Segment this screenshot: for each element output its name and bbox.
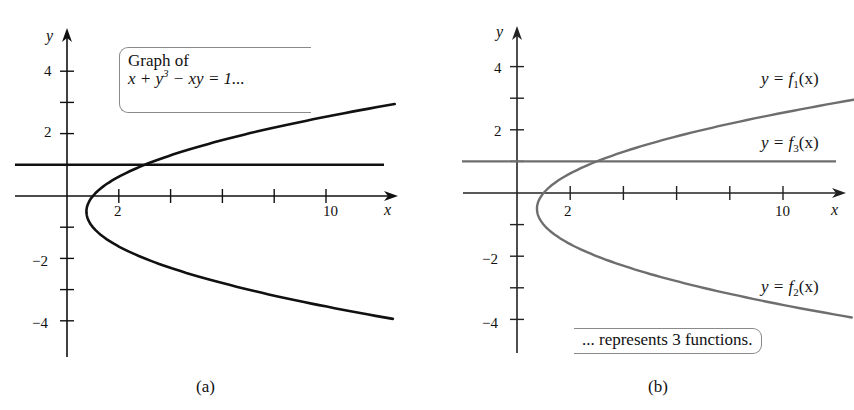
annotation-callout: ... represents 3 functions.: [574, 328, 762, 354]
label-part: (x): [799, 133, 819, 152]
label-f2: y = f2(x): [761, 279, 819, 295]
x-tick-label-2: 2: [564, 204, 572, 219]
x-tick-label-10: 10: [323, 204, 338, 219]
eq-part: − xy = 1...: [169, 69, 245, 88]
label-part: y =: [761, 69, 789, 88]
annotation-callout: Graph of x + y3 − xy = 1...: [119, 47, 311, 113]
eq-part: x + y: [128, 69, 163, 88]
callout-title: Graph of: [128, 52, 303, 70]
y-tick-label-neg2: −2: [482, 252, 498, 267]
y-axis-label: y: [46, 28, 53, 44]
y-tick-label-neg2: −2: [32, 254, 48, 269]
panel-a: y x 2 10 4 2 −2 −4 Graph of x + y3 − xy …: [0, 0, 427, 410]
x-tick-label-2: 2: [114, 204, 122, 219]
label-f3: y = f3(x): [761, 135, 819, 151]
y-axis-label: y: [496, 24, 503, 40]
x-tick-label-10: 10: [775, 204, 790, 219]
y-tick-label-4: 4: [494, 61, 502, 76]
label-part: y =: [761, 133, 789, 152]
x-axis-label: x: [384, 202, 391, 218]
caption-a: (a): [196, 377, 215, 397]
y-tick-label-2: 2: [494, 124, 502, 139]
y-tick-label-neg4: −4: [482, 316, 498, 331]
caption-b: (b): [648, 377, 668, 397]
x-axis-label: x: [831, 202, 838, 218]
label-part: (x): [799, 277, 819, 296]
parabola-curve: [86, 104, 394, 319]
label-part: (x): [799, 69, 819, 88]
y-tick-label-neg4: −4: [32, 316, 48, 331]
y-tick-label-4: 4: [44, 64, 52, 79]
y-tick-label-2: 2: [44, 125, 52, 140]
label-part: y =: [761, 277, 789, 296]
panel-b: y x 2 10 4 2 −2 −4 y = f1(x) y = f3(x) y…: [427, 0, 854, 410]
label-f1: y = f1(x): [761, 71, 819, 87]
callout-equation: x + y3 − xy = 1...: [128, 70, 303, 88]
